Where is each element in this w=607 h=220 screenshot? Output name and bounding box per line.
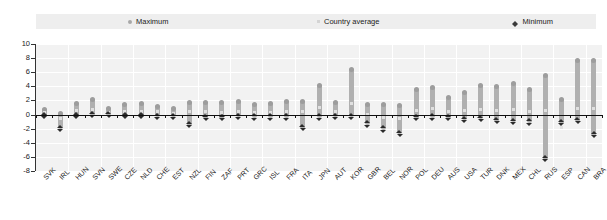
minimum-marker (413, 118, 419, 121)
country-average-marker (495, 109, 498, 112)
x-tick (246, 115, 247, 118)
maximum-marker (74, 101, 79, 106)
minimum-marker (526, 123, 532, 126)
range-bar[interactable] (511, 82, 516, 122)
maximum-marker (155, 104, 160, 109)
minimum-marker (122, 116, 128, 119)
x-tick (68, 115, 69, 118)
maximum-marker (511, 81, 516, 86)
y-axis-tick-label: 10 (8, 40, 30, 48)
maximum-marker (268, 101, 273, 106)
y-tick (31, 44, 35, 45)
legend-item-minimum: Minimum (512, 18, 552, 26)
zero-baseline (36, 115, 602, 116)
country-average-marker (382, 116, 385, 119)
country-average-marker (301, 110, 304, 113)
gridline (36, 129, 602, 130)
gridline-vertical (262, 44, 263, 171)
y-tick (31, 58, 35, 59)
gridline-vertical (424, 44, 425, 171)
y-tick (31, 157, 35, 158)
minimum-marker (510, 122, 516, 125)
y-axis-tick-label: -2 (8, 125, 30, 133)
country-average-marker (415, 109, 418, 112)
minimum-marker (380, 130, 386, 133)
legend-label-maximum: Maximum (136, 18, 169, 26)
range-bar[interactable] (591, 59, 596, 136)
minimum-marker (300, 128, 306, 131)
gridline-vertical (586, 44, 587, 171)
minimum-marker (316, 118, 322, 121)
x-tick (424, 115, 425, 118)
minimum-marker (89, 115, 95, 118)
y-axis-tick-label: 6 (8, 68, 30, 76)
x-tick (198, 115, 199, 118)
gridline-vertical (456, 44, 457, 171)
maximum-marker (90, 97, 95, 102)
maximum-marker (365, 102, 370, 107)
x-tick (165, 115, 166, 118)
minimum-marker (170, 117, 176, 120)
x-tick (456, 115, 457, 118)
country-average-marker (544, 109, 547, 112)
y-tick (31, 129, 35, 130)
x-tick (489, 115, 490, 118)
maximum-marker (252, 102, 257, 107)
x-tick (311, 115, 312, 118)
legend-item-country-average: Country average (317, 18, 380, 26)
diamond-marker-icon (512, 18, 518, 24)
x-tick (279, 115, 280, 118)
minimum-marker (203, 118, 209, 121)
gridline (36, 157, 602, 158)
gridline (36, 143, 602, 144)
maximum-marker (236, 99, 241, 104)
x-tick (376, 115, 377, 118)
country-average-marker (350, 102, 353, 105)
country-average-marker (479, 108, 482, 111)
minimum-marker (332, 117, 338, 120)
x-tick (602, 115, 603, 118)
minimum-marker (429, 118, 435, 121)
y-tick (31, 86, 35, 87)
minimum-marker (138, 116, 144, 119)
minimum-marker (478, 119, 484, 122)
x-tick (295, 115, 296, 118)
y-tick (31, 171, 35, 172)
gridline-vertical (327, 44, 328, 171)
minimum-marker (445, 118, 451, 121)
y-tick (31, 115, 35, 116)
minimum-marker (364, 125, 370, 128)
range-bar[interactable] (543, 74, 548, 160)
country-average-marker (463, 109, 466, 112)
chart-legend: Maximum Country average Minimum (36, 14, 596, 29)
x-tick (149, 115, 150, 118)
x-tick (392, 115, 393, 118)
minimum-marker (235, 117, 241, 120)
minimum-marker (461, 120, 467, 123)
y-axis-tick-label: -4 (8, 139, 30, 147)
gridline-vertical (392, 44, 393, 171)
maximum-marker (139, 101, 144, 106)
gridline-vertical (553, 44, 554, 171)
country-average-marker (188, 110, 191, 113)
range-bar[interactable] (349, 68, 354, 117)
gridline (36, 72, 602, 73)
minimum-marker (542, 159, 548, 162)
y-axis-tick-label: 2 (8, 96, 30, 104)
maximum-marker (543, 73, 548, 78)
y-axis-tick-label: -6 (8, 153, 30, 161)
gridline-vertical (521, 44, 522, 171)
minimum-marker (397, 134, 403, 137)
gridline-vertical (359, 44, 360, 171)
x-tick (327, 115, 328, 118)
y-axis-tick-label: 8 (8, 54, 30, 62)
x-tick (586, 115, 587, 118)
minimum-marker (348, 117, 354, 120)
gridline-vertical (165, 44, 166, 171)
range-bar[interactable] (575, 59, 580, 122)
minimum-marker (154, 117, 160, 120)
x-tick (473, 115, 474, 118)
country-average-marker (447, 110, 450, 113)
maximum-marker (317, 83, 322, 88)
x-tick (214, 115, 215, 118)
